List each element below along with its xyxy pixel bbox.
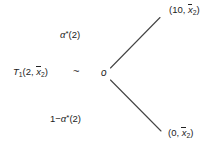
upper-outcome-close: ) <box>197 4 200 15</box>
indifference-relation-symbol: ~ <box>73 66 79 77</box>
lower-prob-arg: (2) <box>69 113 81 124</box>
lottery-tree-diagram: T1(2, x2) ~ o α*(2) 1−α*(2) (10, x2) (0,… <box>0 0 211 149</box>
left-node-label: T1(2, x2) <box>13 67 48 79</box>
upper-prob-arg: (2) <box>69 29 81 40</box>
lower-outcome-label: (0, x2) <box>168 128 193 140</box>
lower-outcome-close: ) <box>190 127 193 138</box>
upper-outcome-open: (10, <box>169 4 188 15</box>
left-node-args-close: ) <box>45 66 48 77</box>
lower-branch-line <box>111 80 162 131</box>
lower-branch-probability-label: 1−α*(2) <box>50 114 81 124</box>
center-node-label: o <box>101 68 107 78</box>
left-node-bar-variable: x <box>36 67 41 77</box>
lower-outcome-open: (0, <box>168 127 182 138</box>
left-node-args-open: (2, <box>23 66 37 77</box>
upper-branch-line <box>111 18 161 69</box>
lower-prob-prefix: 1− <box>50 113 61 124</box>
lower-outcome-bar-variable: x <box>182 128 187 138</box>
upper-outcome-label: (10, x2) <box>169 5 200 17</box>
upper-outcome-bar-variable: x <box>188 5 193 15</box>
upper-branch-probability-label: α*(2) <box>60 30 80 40</box>
